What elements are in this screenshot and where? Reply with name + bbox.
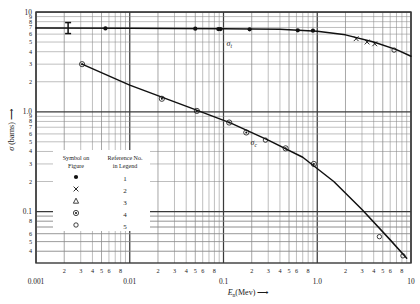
chart-root: 0.0010.010.11.01023456823456823456823456…	[0, 0, 420, 304]
y-minor-label: 2	[29, 78, 32, 85]
x-minor-label: 2	[63, 267, 66, 274]
legend-header-reference-line1: Reference No.	[107, 155, 143, 161]
y-minor-label: 4	[29, 48, 32, 55]
plot-area: 0.0010.010.11.01023456823456823456823456…	[0, 0, 420, 304]
y-minor-label: 3	[29, 160, 32, 167]
neutron-cross-section-chart: 0.0010.010.11.01023456823456823456823456…	[0, 0, 420, 304]
y-axis-title: σ (barns) ⟶	[7, 108, 16, 151]
x-minor-label: 5	[381, 267, 384, 274]
legend-reference-1: 1	[123, 175, 127, 183]
data-point-σ-t	[218, 27, 222, 31]
x-minor-label: 6	[295, 267, 298, 274]
y-minor-label: 3	[29, 60, 32, 67]
x-minor-label: 2	[250, 267, 253, 274]
y-minor-label: 4	[29, 147, 32, 154]
legend-header-reference-line2: in Legend	[113, 163, 138, 169]
x-minor-label: 5	[100, 267, 103, 274]
x-minor-label: 3	[173, 267, 176, 274]
x-decade-label-4: 10	[407, 277, 415, 286]
y-minor-label: 5	[29, 238, 32, 245]
data-point-σ-t	[311, 29, 315, 33]
data-point-σ-c-dot	[161, 98, 163, 100]
x-minor-label: 3	[79, 267, 82, 274]
y-minor-label: 8	[29, 217, 32, 224]
x-minor-label: 8	[119, 267, 122, 274]
y-minor-label: 6	[29, 130, 32, 137]
y-decade-label-0.1: 0.1	[23, 207, 33, 216]
x-decade-label-3: 1.0	[313, 277, 323, 286]
x-decade-label-0: 0.001	[28, 277, 45, 286]
x-minor-label: 4	[372, 267, 375, 274]
x-minor-label: 5	[287, 267, 290, 274]
x-decade-label-2: 0.1	[219, 277, 229, 286]
legend-symbol-circled-dot-dot	[75, 212, 77, 214]
legend-reference-3: 3	[123, 199, 127, 207]
legend-header-symbol-line1: Symbol on	[63, 155, 90, 161]
y-minor-label: 2	[29, 178, 32, 185]
x-minor-label: 4	[185, 267, 188, 274]
data-point-σ-c-dot	[228, 122, 230, 124]
x-minor-label: 8	[400, 267, 403, 274]
legend-symbol-filled-circle	[74, 175, 78, 179]
legend-header-symbol-line2: Figure	[68, 163, 84, 169]
x-minor-label: 6	[389, 267, 392, 274]
y-minor-label: 4	[29, 247, 32, 254]
x-minor-label: 3	[267, 267, 270, 274]
y-minor-label: 6	[29, 30, 32, 37]
data-point-σ-c-dot	[196, 110, 198, 112]
x-minor-label: 2	[156, 267, 159, 274]
y-minor-label: 6	[29, 230, 32, 237]
data-point-σ-t	[193, 27, 197, 31]
data-point-σ-c-dot	[245, 131, 247, 133]
data-point-σ-t	[296, 28, 300, 32]
y-minor-label: 5	[29, 138, 32, 145]
x-minor-label: 4	[91, 267, 94, 274]
data-point-σ-c-dot	[81, 63, 83, 65]
x-minor-label: 2	[344, 267, 347, 274]
data-point-σ-t	[248, 27, 252, 31]
data-point-σ-c-dot	[313, 163, 315, 165]
x-minor-label: 6	[201, 267, 204, 274]
x-decade-label-1: 0.01	[123, 277, 136, 286]
x-minor-label: 3	[360, 267, 363, 274]
data-point-σ-c-dot	[285, 147, 287, 149]
x-minor-label: 8	[213, 267, 216, 274]
legend-reference-2: 2	[123, 187, 127, 195]
x-minor-label: 5	[194, 267, 197, 274]
x-minor-label: 6	[107, 267, 110, 274]
y-minor-label: 5	[29, 38, 32, 45]
data-point-σ-t	[103, 26, 107, 30]
x-minor-label: 4	[278, 267, 281, 274]
legend: Symbol onFigureReference No.in Legend123…	[53, 150, 150, 231]
legend-reference-4: 4	[123, 211, 127, 219]
x-minor-label: 8	[307, 267, 310, 274]
legend-reference-5: 5	[123, 223, 127, 231]
